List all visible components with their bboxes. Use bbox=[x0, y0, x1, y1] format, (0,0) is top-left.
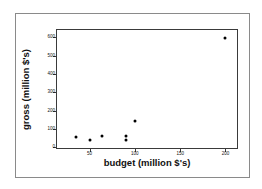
y-axis-label-text: gross (million $'s) bbox=[20, 49, 31, 130]
x-axis-label: budget (million $'s) bbox=[56, 157, 238, 168]
plot-area: 0100200300400500600 50100150200 bbox=[56, 29, 238, 149]
scatter-point bbox=[224, 37, 227, 40]
y-tick-label: 0 bbox=[52, 145, 55, 150]
scatter-point bbox=[88, 138, 91, 141]
x-tick-label: 200 bbox=[222, 152, 230, 157]
scatter-point bbox=[101, 134, 104, 137]
scatter-point bbox=[124, 138, 127, 141]
y-tick-label: 300 bbox=[47, 90, 55, 95]
y-tick-label: 100 bbox=[47, 127, 55, 132]
x-tick-label: 100 bbox=[131, 152, 139, 157]
scatter-points-layer bbox=[57, 30, 237, 148]
y-tick-label: 200 bbox=[47, 108, 55, 113]
scatter-point bbox=[75, 136, 78, 139]
y-axis-label: gross (million $'s) bbox=[18, 29, 32, 149]
scatter-point bbox=[124, 134, 127, 137]
x-tick-label: 50 bbox=[87, 152, 92, 157]
figure-container: gross (million $'s) 0100200300400500600 … bbox=[15, 13, 250, 178]
scatter-point bbox=[133, 119, 136, 122]
y-tick-label: 400 bbox=[47, 72, 55, 77]
y-tick-label: 600 bbox=[47, 35, 55, 40]
y-tick-label: 500 bbox=[47, 53, 55, 58]
x-tick-label: 150 bbox=[176, 152, 184, 157]
